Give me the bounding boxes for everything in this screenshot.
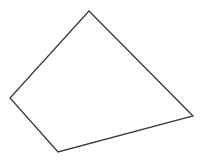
quadrilateral-shape [10, 11, 193, 152]
diagram-canvas [0, 0, 202, 160]
quadrilateral-diagram [0, 0, 202, 160]
